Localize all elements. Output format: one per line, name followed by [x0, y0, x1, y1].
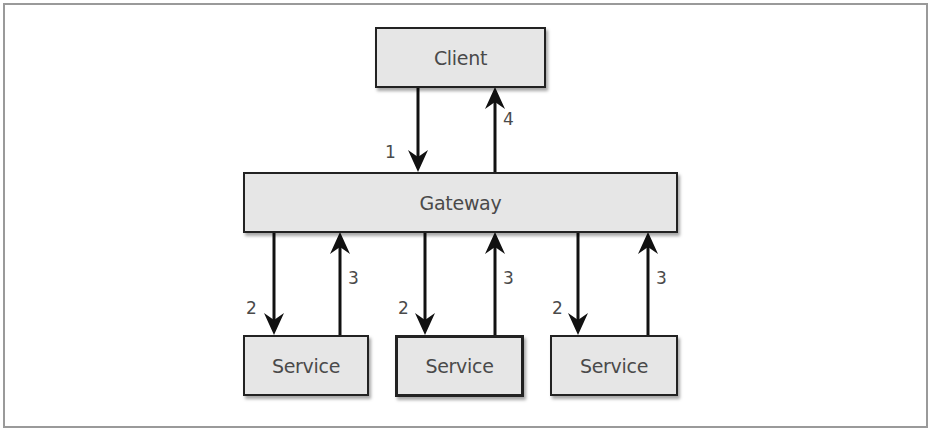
- service-node-2: Service: [395, 335, 524, 397]
- service-node-3: Service: [550, 335, 678, 396]
- arrow-gateway-to-client: [485, 87, 505, 172]
- arrow-gateway-to-service-1: [264, 232, 284, 335]
- edge-label-4: 4: [503, 109, 514, 129]
- client-label: Client: [434, 47, 487, 69]
- client-node: Client: [375, 27, 546, 88]
- edge-label-1: 1: [385, 142, 396, 162]
- edge-label-3: 3: [348, 268, 359, 288]
- edge-label-3: 3: [503, 268, 514, 288]
- arrow-service-1-to-gateway: [330, 232, 350, 335]
- edge-label-2: 2: [246, 298, 257, 318]
- edge-label-2: 2: [398, 298, 409, 318]
- service-label: Service: [580, 355, 648, 377]
- edge-label-3: 3: [656, 268, 667, 288]
- edge-label-2: 2: [552, 298, 563, 318]
- arrow-client-to-gateway: [408, 87, 428, 172]
- gateway-node: Gateway: [243, 172, 678, 233]
- arrow-gateway-to-service-3: [568, 232, 588, 335]
- gateway-label: Gateway: [420, 192, 502, 214]
- arrow-service-2-to-gateway: [485, 232, 505, 335]
- service-label: Service: [425, 355, 493, 377]
- service-label: Service: [272, 355, 340, 377]
- arrow-service-3-to-gateway: [638, 232, 658, 335]
- service-node-1: Service: [243, 335, 369, 396]
- arrow-gateway-to-service-2: [415, 232, 435, 335]
